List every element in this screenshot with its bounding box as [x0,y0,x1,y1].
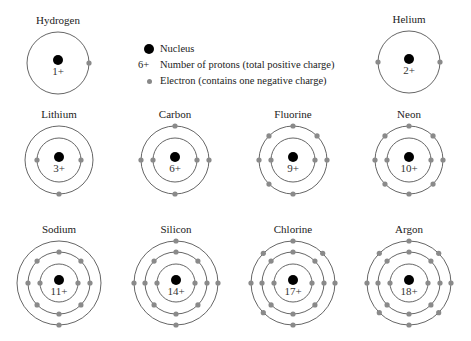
electron-icon [172,123,177,128]
atom-name-label: Argon [395,223,423,235]
proton-count-label: 9+ [287,162,299,174]
electron-icon [154,280,159,285]
atom-name-label: Neon [397,108,421,120]
electron-icon [406,311,411,316]
electron-icon [406,123,411,128]
electron-icon [34,157,39,162]
electron-icon [332,280,337,285]
proton-count-label: 3+ [53,162,65,174]
electron-icon [256,157,261,162]
electron-icon [173,238,178,243]
proton-count-label: 18+ [400,285,417,297]
legend-row-protons: 6+ Number of protons (total positive cha… [138,57,334,73]
electron-icon [56,322,61,327]
electron-icon [290,322,295,327]
legend-row-electron: Electron (contains one negative charge) [138,73,334,89]
electron-icon [382,133,387,138]
electron-icon [192,280,197,285]
electron-icon [382,181,387,186]
electron-icon [428,302,433,307]
atom-name-label: Lithium [41,108,76,120]
electron-icon [437,280,442,285]
electron-icon [375,59,380,64]
nucleus-icon [144,44,154,54]
electron-icon [290,249,295,254]
atom-name-label: Fluorine [274,108,311,120]
proton-count-label: 14+ [167,285,184,297]
electron-icon [375,280,380,285]
nucleus-icon [404,152,414,162]
electron-icon [321,280,326,285]
legend-protons-label: Number of protons (total positive charge… [160,57,334,73]
electron-icon [78,157,83,162]
nucleus-icon [404,54,414,64]
electron-icon [194,157,199,162]
electron-icon [173,249,178,254]
atom-name-label: Hydrogen [36,14,80,26]
atom-helium [375,31,442,93]
electron-icon [34,302,39,307]
nucleus-icon [53,55,63,65]
nucleus-icon [54,275,64,285]
electron-icon [78,302,83,307]
electron-icon [314,133,319,138]
proton-count-label: 11+ [51,285,68,297]
atom-fluorine [256,123,329,196]
proton-count-label: 10+ [400,162,417,174]
electron-icon [268,157,273,162]
atom-chlorine [248,238,337,327]
electron-icon [261,251,266,256]
nucleus-icon [288,152,298,162]
electron-icon [436,310,441,315]
electron-icon [436,251,441,256]
electron-icon [56,311,61,316]
electron-icon [150,157,155,162]
electron-icon [428,157,433,162]
electron-icon [437,59,442,64]
electron-icon [266,181,271,186]
atom-neon [372,123,445,196]
legend: Nucleus 6+ Number of protons (total posi… [138,41,334,89]
electron-icon [142,280,147,285]
nucleus-icon [404,275,414,285]
electron-icon [290,123,295,128]
electron-icon [172,191,177,196]
electron-icon [25,280,30,285]
electron-icon [204,280,209,285]
electron-icon [428,258,433,263]
electron-icon [312,258,317,263]
atom-hydrogen [27,32,92,94]
proton-count-label: 17+ [284,285,301,297]
electron-icon [384,258,389,263]
electron-icon [151,302,156,307]
electron-icon [312,157,317,162]
electron-icon [138,157,143,162]
electron-icon [259,280,264,285]
electron-icon [173,322,178,327]
nucleus-icon [288,275,298,285]
electron-icon [312,302,317,307]
atom-argon [364,238,453,327]
electron-icon [430,181,435,186]
electron-icon [86,60,91,65]
atom-name-label: Helium [393,13,426,25]
electron-icon [271,280,276,285]
electron-icon [364,280,369,285]
electron-icon [56,191,61,196]
electron-icon [248,280,253,285]
proton-count-label: 1+ [52,65,64,77]
atom-name-label: Sodium [42,223,76,235]
nucleus-icon [54,152,64,162]
electron-icon [440,157,445,162]
electron-icon [147,79,152,84]
electron-icon [384,302,389,307]
electron-icon [324,157,329,162]
nucleus-icon [171,275,181,285]
electron-icon [320,251,325,256]
legend-nucleus-label: Nucleus [160,41,194,57]
electron-icon [261,310,266,315]
electron-icon [406,322,411,327]
electron-icon [266,133,271,138]
electron-icon [448,280,453,285]
atom-name-label: Carbon [159,108,191,120]
